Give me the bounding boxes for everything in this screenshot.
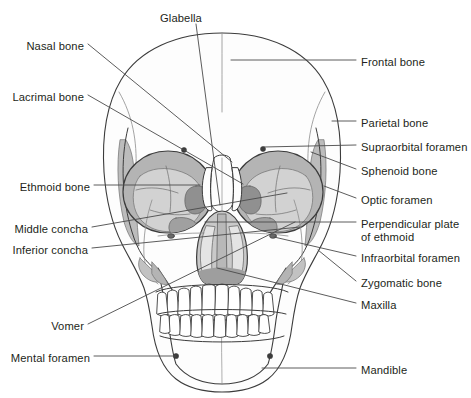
label-vomer: Vomer bbox=[0, 320, 84, 333]
label-perpendicular-plate-of-ethmoid: Perpendicular plate of ethmoid bbox=[361, 218, 459, 243]
label-lacrimal-bone: Lacrimal bone bbox=[0, 91, 84, 104]
label-ethmoid-bone: Ethmoid bone bbox=[0, 181, 90, 194]
label-mandible: Mandible bbox=[361, 364, 407, 377]
mental-foramen-right-icon bbox=[268, 354, 273, 359]
lower-teeth bbox=[160, 315, 270, 338]
supraorbital-foramen-right-icon bbox=[261, 147, 265, 151]
label-inferior-concha: Inferior concha bbox=[0, 244, 88, 257]
label-supraorbital-foramen: Supraorbital foramen bbox=[361, 141, 467, 154]
label-frontal-bone: Frontal bone bbox=[361, 56, 425, 69]
label-mental-foramen: Mental foramen bbox=[0, 352, 90, 365]
nasal-bones bbox=[211, 155, 234, 212]
label-nasal-bone: Nasal bone bbox=[0, 40, 84, 53]
skull-body bbox=[104, 33, 341, 392]
label-optic-foramen: Optic foramen bbox=[361, 194, 433, 207]
label-middle-concha: Middle concha bbox=[0, 223, 88, 236]
label-glabella: Glabella bbox=[141, 12, 221, 25]
label-parietal-bone: Parietal bone bbox=[361, 117, 428, 130]
infraorbital-foramen-left-icon bbox=[168, 234, 175, 239]
label-sphenoid-bone: Sphenoid bone bbox=[361, 165, 438, 178]
skull-diagram-figure: Glabella Nasal bone Lacrimal bone Ethmoi… bbox=[0, 0, 471, 398]
label-zygomatic-bone: Zygomatic bone bbox=[361, 277, 442, 290]
label-infraorbital-foramen: Infraorbital foramen bbox=[361, 252, 460, 265]
label-maxilla: Maxilla bbox=[361, 299, 397, 312]
